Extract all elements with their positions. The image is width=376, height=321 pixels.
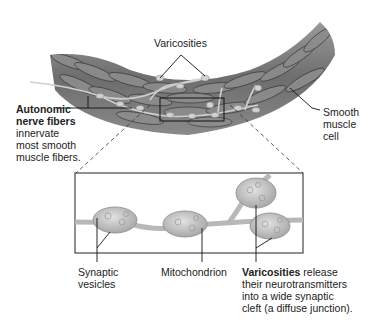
label-varicosities-desc-4: cleft (a diffuse junction). bbox=[242, 302, 353, 314]
label-synaptic-1: Synaptic bbox=[78, 266, 118, 278]
label-varicosities-bold: Varicosities bbox=[242, 266, 300, 278]
label-varicosities-desc-1: release bbox=[300, 266, 337, 278]
label-varicosities-desc-2: their neurotransmitters bbox=[242, 278, 347, 290]
varicosity-2 bbox=[163, 211, 207, 237]
label-varicosities-release-1: Varicosities release bbox=[242, 266, 338, 278]
label-varicosities-top: Varicosities bbox=[154, 37, 207, 49]
label-autonomic-desc-3: muscle fibers. bbox=[16, 151, 81, 163]
label-autonomic-desc-2: most smooth bbox=[16, 139, 76, 151]
label-synaptic-2: vesicles bbox=[78, 278, 115, 290]
label-autonomic-title-2: nerve fibers bbox=[16, 115, 76, 127]
label-autonomic-desc-1: innervate bbox=[16, 127, 59, 139]
label-varicosities-desc-3: into a wide synaptic bbox=[242, 290, 334, 302]
varicosity-3 bbox=[236, 178, 276, 208]
label-autonomic-title-1: Autonomic bbox=[16, 103, 71, 115]
label-smooth-2: muscle bbox=[323, 118, 356, 130]
label-smooth-1: Smooth bbox=[323, 106, 359, 118]
label-mitochondrion: Mitochondrion bbox=[161, 266, 227, 278]
varicosity-1 bbox=[93, 207, 137, 233]
label-smooth-3: cell bbox=[323, 130, 339, 142]
